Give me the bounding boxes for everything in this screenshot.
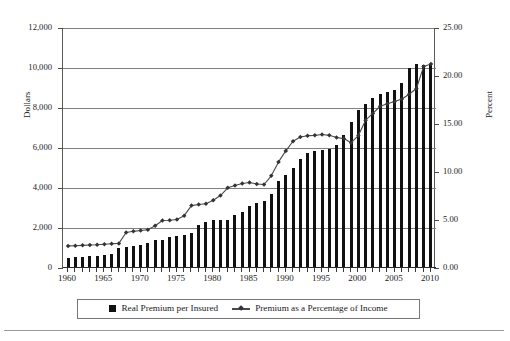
x-axis-tick (372, 268, 373, 272)
y-axis-tick-label-right: 15.00 (443, 119, 485, 128)
x-axis-tick (314, 268, 315, 272)
x-axis-tick (292, 268, 293, 272)
x-axis-tick (350, 268, 351, 272)
y-axis-tick-label-right: 10.00 (443, 167, 485, 176)
line-marker (66, 244, 71, 249)
x-axis-tick (74, 268, 75, 272)
x-axis-tick (256, 268, 257, 272)
y-axis-tick-label-right: 0.00 (443, 263, 485, 272)
x-axis-tick (241, 268, 242, 272)
x-axis-tick (379, 268, 380, 272)
line-marker (334, 135, 339, 140)
x-axis-tick (357, 268, 358, 272)
line-marker (421, 64, 426, 69)
x-axis-tick (386, 268, 387, 272)
chart-legend: Real Premium per Insured Premium as a Pe… (77, 299, 420, 319)
x-axis-tick-label: 1975 (156, 274, 196, 283)
x-axis-tick (408, 268, 409, 272)
x-axis-tick (415, 268, 416, 272)
line-marker (313, 133, 318, 138)
footer-rule (4, 330, 504, 331)
x-axis-tick-label: 2005 (374, 274, 414, 283)
x-axis-tick (176, 268, 177, 272)
x-axis-line (63, 267, 436, 268)
x-axis-tick-label: 1960 (47, 274, 87, 283)
line-marker (109, 242, 114, 247)
x-axis-tick-label: 2010 (410, 274, 450, 283)
line-marker (80, 243, 85, 248)
x-axis-tick-label: 1970 (120, 274, 160, 283)
x-axis-tick (125, 268, 126, 272)
line-marker (146, 228, 151, 233)
legend-item-real-premium-per-insured: Real Premium per Insured (109, 304, 218, 313)
x-axis-tick (183, 268, 184, 272)
y-axis-tick-label-right: 25.00 (443, 23, 485, 32)
x-axis-tick (249, 268, 250, 272)
x-axis-tick (154, 268, 155, 272)
x-axis-tick (219, 268, 220, 272)
line-marker (233, 183, 238, 188)
line-marker (95, 243, 100, 248)
x-axis-tick (270, 268, 271, 272)
legend-square-icon (109, 305, 116, 312)
x-axis-tick (89, 268, 90, 272)
x-axis-tick (401, 268, 402, 272)
x-axis-tick-label: 1985 (229, 274, 269, 283)
x-axis-tick (299, 268, 300, 272)
line-marker (175, 217, 180, 222)
line-marker (131, 229, 136, 234)
x-axis-tick (132, 268, 133, 272)
line-marker (429, 62, 434, 67)
y-axis-tick-label-left: 2,000 (0, 223, 52, 232)
line-marker (254, 182, 259, 187)
x-axis-tick (307, 268, 308, 272)
x-axis-tick (365, 268, 366, 272)
x-axis-tick (198, 268, 199, 272)
x-axis-tick (96, 268, 97, 272)
y-axis-tick-label-left: 8,000 (0, 103, 52, 112)
y-axis-tick-label-right: 5.00 (443, 215, 485, 224)
legend-label-real-premium-per-insured: Real Premium per Insured (121, 304, 218, 313)
y-axis-tick-label-left: 4,000 (0, 183, 52, 192)
x-axis-tick (161, 268, 162, 272)
x-axis-tick-label: 1980 (192, 274, 232, 283)
y-axis-tick-label-left: 6,000 (0, 143, 52, 152)
plot-area (62, 28, 435, 268)
x-axis-tick (82, 268, 83, 272)
x-axis-tick (227, 268, 228, 272)
x-axis-tick-label: 1990 (265, 274, 305, 283)
x-axis-tick (111, 268, 112, 272)
x-axis-tick (328, 268, 329, 272)
legend-line-marker-icon (232, 305, 250, 313)
line-marker (305, 133, 310, 138)
x-axis-tick (140, 268, 141, 272)
x-axis-tick (234, 268, 235, 272)
line-marker (385, 102, 390, 107)
x-axis-tick-label: 1995 (301, 274, 341, 283)
line-series-premium-as-a-percentage-of-income (63, 28, 436, 268)
x-axis-tick (278, 268, 279, 272)
y-axis-tick-label-left: 12,000 (0, 23, 52, 32)
line-marker (298, 135, 303, 140)
x-axis-tick (118, 268, 119, 272)
y-axis-title-right: Percent (484, 91, 494, 118)
y-axis-tick-left (58, 268, 63, 269)
y-axis-tick-right (434, 268, 439, 269)
line-marker (327, 133, 332, 138)
line-marker (196, 202, 201, 207)
x-axis-tick (169, 268, 170, 272)
x-axis-tick (212, 268, 213, 272)
x-axis-tick (343, 268, 344, 272)
x-axis-tick (205, 268, 206, 272)
line-marker (88, 243, 93, 248)
line-marker (102, 242, 107, 247)
legend-label-premium-as-a-percentage-of-income: Premium as a Percentage of Income (255, 304, 387, 313)
line-marker (138, 228, 143, 233)
x-axis-tick (336, 268, 337, 272)
x-axis-tick-label: 1965 (83, 274, 123, 283)
x-axis-tick (285, 268, 286, 272)
x-axis-tick (67, 268, 68, 272)
x-axis-tick (430, 268, 431, 272)
y-axis-tick-label-left: 0 (0, 263, 52, 272)
line-marker (392, 99, 397, 104)
